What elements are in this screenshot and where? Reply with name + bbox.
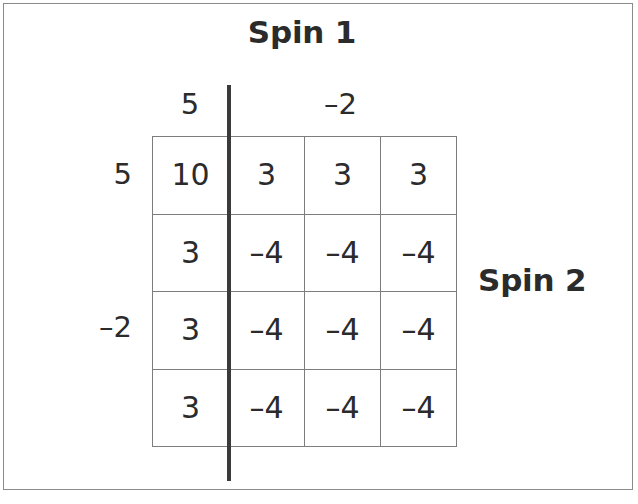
column-header-spin1-minus2: –2 — [229, 90, 452, 119]
matrix-cell-r0c0: 10 — [153, 137, 229, 215]
matrix-cell-r2c0: 3 — [153, 292, 229, 370]
row-header-spin2-5: 5 — [42, 160, 132, 189]
matrix-cell-r2c1: –4 — [229, 292, 305, 370]
table-row: 3 –4 –4 –4 — [153, 214, 457, 292]
matrix-cell-r1c0: 3 — [153, 214, 229, 292]
payoff-matrix-grid: 10 3 3 3 3 –4 –4 –4 3 –4 –4 –4 — [152, 136, 452, 442]
matrix-cell-r1c1: –4 — [229, 214, 305, 292]
strategy-divider-line — [227, 85, 231, 481]
matrix-cell-r3c3: –4 — [381, 369, 457, 447]
matrix-cell-r0c1: 3 — [229, 137, 305, 215]
table-row: 3 –4 –4 –4 — [153, 292, 457, 370]
matrix-cell-r3c0: 3 — [153, 369, 229, 447]
matrix-cell-r2c3: –4 — [381, 292, 457, 370]
row-header-spin2-minus2: –2 — [42, 313, 132, 342]
matrix-cell-r1c2: –4 — [305, 214, 381, 292]
matrix-cell-r0c2: 3 — [305, 137, 381, 215]
figure-canvas: Spin 1 Spin 2 5 –2 5 –2 10 3 3 3 3 –4 –4… — [0, 0, 638, 504]
matrix-cell-r2c2: –4 — [305, 292, 381, 370]
table-row: 3 –4 –4 –4 — [153, 369, 457, 447]
spin-1-title: Spin 1 — [202, 17, 402, 48]
table-row: 10 3 3 3 — [153, 137, 457, 215]
matrix-cell-r3c2: –4 — [305, 369, 381, 447]
matrix-cell-r1c3: –4 — [381, 214, 457, 292]
spin-2-title: Spin 2 — [478, 265, 586, 296]
matrix-cell-r3c1: –4 — [229, 369, 305, 447]
column-header-spin1-5: 5 — [152, 90, 228, 119]
matrix-cell-r0c3: 3 — [381, 137, 457, 215]
payoff-matrix-table: 10 3 3 3 3 –4 –4 –4 3 –4 –4 –4 — [152, 136, 457, 447]
